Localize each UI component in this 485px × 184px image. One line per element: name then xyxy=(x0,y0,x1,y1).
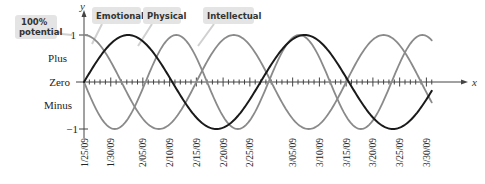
callout-100-potential: 100% potential xyxy=(15,15,63,39)
y-tick-plus: Plus xyxy=(48,52,67,64)
x-tick-label: 3/30/09 xyxy=(422,138,432,167)
x-tick-label: 1/30/09 xyxy=(106,138,116,167)
y-tick-zero: Zero xyxy=(49,76,70,88)
x-tick-label: 2/05/09 xyxy=(138,138,148,167)
y-tick-1: 1 xyxy=(71,29,77,41)
x-tick-label: 2/15/09 xyxy=(192,138,202,167)
legend-physical: Physical xyxy=(143,7,187,24)
x-tick-label: 2/25/09 xyxy=(245,138,255,167)
x-tick-label: 1/25/09 xyxy=(80,138,90,167)
x-tick-label: 3/25/09 xyxy=(395,138,405,167)
legend-physical-label: Physical xyxy=(147,11,187,21)
legend-emotional-label: Emotional xyxy=(96,11,144,21)
legend-intellectual-label: Intellectual xyxy=(207,11,262,21)
y-tick-neg1: −1 xyxy=(66,123,78,135)
x-tick-label: 3/20/09 xyxy=(368,138,378,167)
x-tick-label: 2/10/09 xyxy=(165,138,175,167)
callout-text-potential: potential xyxy=(19,27,63,37)
x-tick-label: 3/05/09 xyxy=(288,138,298,167)
x-axis-arrow-icon xyxy=(461,80,468,85)
callout-text-100: 100% xyxy=(21,17,48,27)
legend-emotional: Emotional xyxy=(92,7,144,24)
x-tick-labels: 1/25/091/30/092/05/092/10/092/15/092/20/… xyxy=(80,138,432,167)
x-tick-label: 2/20/09 xyxy=(219,138,229,167)
x-tick-label: 3/15/09 xyxy=(342,138,352,167)
legend-intellectual: Intellectual xyxy=(203,7,262,24)
y-tick-minus: Minus xyxy=(44,99,72,111)
x-tick-label: 3/10/09 xyxy=(315,138,325,167)
x-axis-label: x xyxy=(471,76,477,88)
y-axis-label: y xyxy=(79,0,85,12)
biorhythm-chart: 100% potential Emotional Physical Intell… xyxy=(0,0,485,184)
